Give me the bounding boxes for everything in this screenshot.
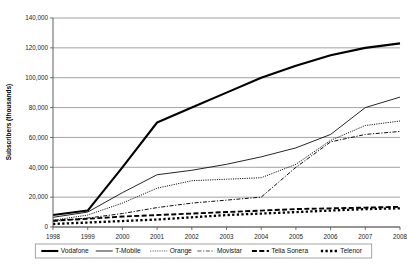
x-tick-label: 1998 <box>46 233 61 240</box>
x-tick-label: 2003 <box>219 233 234 240</box>
chart-legend: VodafoneT-MobileOrangeMovistarTelia Sone… <box>35 244 371 258</box>
x-tick-label: 2002 <box>185 233 200 240</box>
y-tick-label: 80,000 <box>29 104 49 111</box>
axis-lines <box>53 18 400 227</box>
x-tick-label: 2006 <box>324 233 339 240</box>
y-tick-label: 120,000 <box>25 44 48 51</box>
x-axis-ticks: 1998199920002001200220032004200520062007… <box>46 227 407 240</box>
y-tick-label: 100,000 <box>25 74 48 81</box>
y-tick-label: 140,000 <box>25 14 48 21</box>
y-tick-label: 20,000 <box>29 193 49 200</box>
legend-label-telenor[interactable]: Telenor <box>340 247 362 254</box>
x-tick-label: 1999 <box>81 233 96 240</box>
series-line-vodafone <box>53 43 400 215</box>
series-line-orange <box>53 121 400 220</box>
y-axis-title: Subscribers (thousands) <box>5 84 13 161</box>
x-tick-label: 2005 <box>289 233 304 240</box>
x-tick-label: 2004 <box>254 233 269 240</box>
y-tick-label: 60,000 <box>29 134 49 141</box>
x-tick-label: 2000 <box>115 233 130 240</box>
series-line-t-mobile <box>53 97 400 217</box>
chart-container: 020,00040,00060,00080,000100,000120,0001… <box>0 0 407 267</box>
legend-label-telia-sonera[interactable]: Telia Sonera <box>271 247 308 254</box>
legend-label-t-mobile[interactable]: T-Mobile <box>115 247 141 254</box>
legend-label-movistar[interactable]: Movistar <box>217 247 243 254</box>
legend-label-orange[interactable]: Orange <box>170 247 192 255</box>
legend-label-vodafone[interactable]: Vodafone <box>61 247 89 254</box>
line-chart: 020,00040,00060,00080,000100,000120,0001… <box>0 0 407 267</box>
gridlines <box>53 18 400 227</box>
x-tick-label: 2008 <box>393 233 407 240</box>
y-tick-label: 40,000 <box>29 164 49 171</box>
series-line-movistar <box>53 131 400 221</box>
x-tick-label: 2007 <box>358 233 373 240</box>
x-tick-label: 2001 <box>150 233 165 240</box>
y-tick-label: 0 <box>44 223 48 230</box>
y-axis-ticks: 020,00040,00060,00080,000100,000120,0001… <box>25 14 53 230</box>
